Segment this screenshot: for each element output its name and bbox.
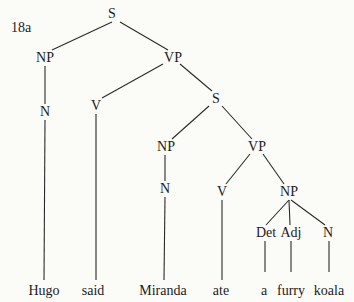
tree-branch [222, 106, 252, 139]
node-v-said: V [91, 99, 101, 113]
node-np-miranda: NP [157, 140, 175, 154]
node-np-object: NP [280, 185, 298, 199]
node-np-subject: NP [36, 51, 54, 65]
node-n-miranda: N [160, 182, 170, 196]
leaf-a: a [261, 284, 267, 298]
leaf-ate: ate [213, 284, 229, 298]
node-s-root: S [108, 7, 116, 21]
tree-branch [164, 197, 165, 280]
leaf-hugo: Hugo [28, 284, 59, 298]
node-n-hugo: N [40, 105, 50, 119]
tree-branch [172, 106, 209, 139]
example-number-label: 18a [11, 21, 31, 35]
leaf-furry: furry [277, 284, 305, 298]
node-v-ate: V [217, 185, 227, 199]
tree-branch [263, 154, 284, 184]
node-vp-main: VP [164, 51, 182, 65]
tree-branch [266, 200, 289, 225]
leaf-koala: koala [314, 284, 344, 298]
node-n-koala: N [323, 226, 333, 240]
tree-branch [291, 200, 325, 225]
node-det: Det [256, 226, 276, 240]
leaf-miranda: Miranda [139, 284, 186, 298]
tree-branch [120, 22, 168, 50]
tree-edges [0, 0, 354, 302]
node-vp-embedded: VP [248, 140, 266, 154]
node-s-embedded: S [212, 92, 220, 106]
tree-branch [226, 154, 250, 184]
tree-branch [289, 200, 290, 225]
tree-branch [180, 64, 212, 91]
node-adj: Adj [281, 226, 302, 240]
tree-branch [44, 120, 45, 280]
tree-branch [52, 22, 112, 50]
leaf-said: said [82, 284, 105, 298]
tree-branch [102, 64, 163, 98]
